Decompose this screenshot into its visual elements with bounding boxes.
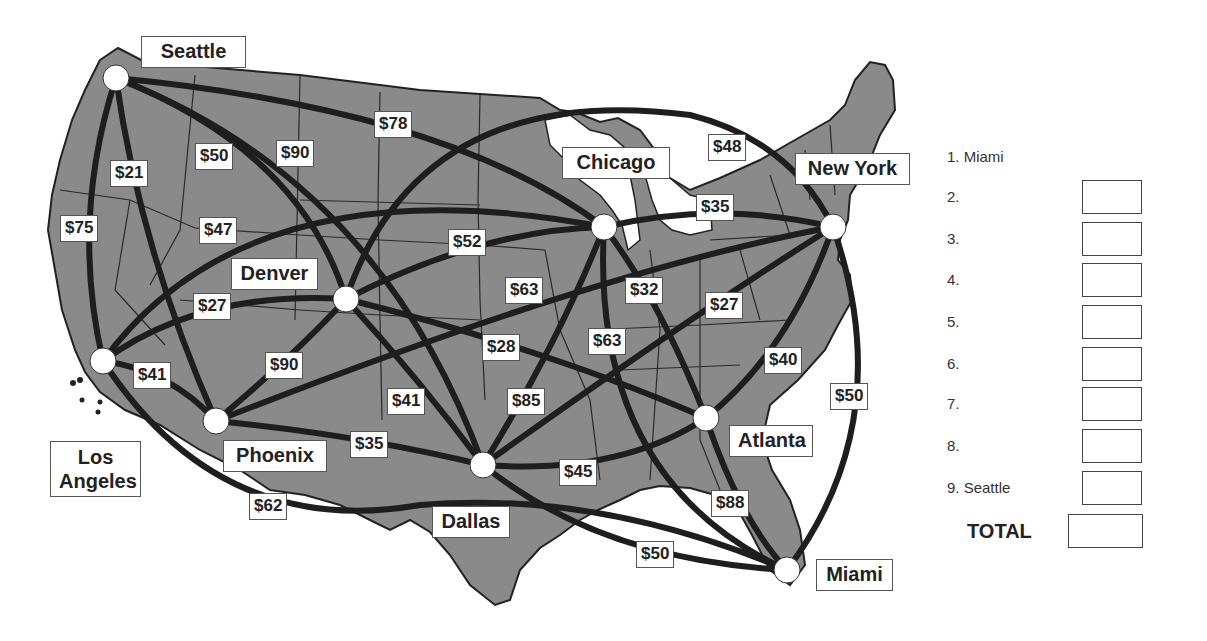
price-label-dallas-atlanta: $45 [559, 459, 597, 486]
city-node-phoenix [203, 408, 229, 434]
price-label-phoenix-new-york: $63 [505, 277, 543, 304]
answer-row-3: 3. [945, 222, 1175, 258]
answer-row-1: 1. Miami [945, 140, 1175, 176]
price-label-chicago-atlanta: $32 [625, 277, 663, 304]
answer-box[interactable] [1082, 429, 1142, 463]
city-label-dallas: Dallas [432, 506, 510, 538]
total-row: TOTAL [945, 514, 1175, 550]
price-label-seattle-phoenix: $21 [110, 160, 148, 187]
answer-row-8: 8. [945, 429, 1175, 465]
answer-row-5: 5. [945, 305, 1175, 341]
city-label-los-angeles: Los Angeles [50, 441, 141, 497]
price-label-denver-dallas: $41 [387, 388, 425, 415]
answer-row-4: 4. [945, 263, 1175, 299]
city-node-denver [333, 286, 359, 312]
price-label-dallas-miami: $50 [636, 541, 674, 568]
city-node-miami [774, 557, 800, 583]
answer-box[interactable] [1082, 471, 1142, 505]
price-label-denver-new-york: $48 [708, 134, 746, 161]
answer-row-label: 9. Seattle [947, 479, 1010, 496]
answer-box[interactable] [1082, 305, 1142, 339]
city-label-miami: Miami [816, 559, 893, 591]
answer-box[interactable] [1082, 387, 1142, 421]
price-label-los-angeles-denver: $27 [193, 293, 231, 320]
price-label-chicago-new-york: $35 [696, 194, 734, 221]
price-label-los-angeles-chicago: $47 [199, 217, 237, 244]
city-label-atlanta: Atlanta [729, 425, 813, 457]
answer-row-label: 4. [947, 271, 960, 288]
answer-box[interactable] [1082, 347, 1142, 381]
answer-row-label: 1. Miami [947, 148, 1004, 165]
price-label-dallas-new-york: $27 [705, 292, 743, 319]
price-label-seattle-denver: $90 [276, 140, 314, 167]
answer-row-7: 7. [945, 387, 1175, 423]
answer-row-2: 2. [945, 180, 1175, 216]
answer-box[interactable] [1082, 263, 1142, 297]
price-label-chicago-miami: $63 [588, 328, 626, 355]
city-node-atlanta [693, 405, 719, 431]
answer-sheet: 1. Miami 2. 3. 4. 5. 6. 7. 8. 9. Seattle… [945, 140, 1175, 560]
answer-row-label: 7. [947, 395, 960, 412]
price-label-denver-atlanta: $28 [482, 334, 520, 361]
answer-row-9: 9. Seattle [945, 471, 1175, 507]
price-label-phoenix-denver: $90 [265, 352, 303, 379]
answer-box[interactable] [1082, 180, 1142, 214]
answer-row-label: 8. [947, 437, 960, 454]
price-label-denver-chicago: $52 [448, 229, 486, 256]
city-node-chicago [591, 214, 617, 240]
city-label-chicago: Chicago [562, 147, 670, 179]
answer-row-label: 6. [947, 355, 960, 372]
city-label-phoenix: Phoenix [223, 440, 327, 472]
price-label-seattle-dallas: $50 [195, 143, 233, 170]
answer-row-label: 5. [947, 313, 960, 330]
answer-row-label: 3. [947, 230, 960, 247]
price-label-dallas-chicago: $85 [507, 388, 545, 415]
price-label-seattle-chicago: $78 [374, 111, 412, 138]
city-node-new-york [820, 214, 846, 240]
price-label-new-york-miami: $50 [830, 383, 868, 410]
answer-row-label: 2. [947, 188, 960, 205]
answer-row-6: 6. [945, 347, 1175, 383]
price-label-los-angeles-phoenix: $41 [133, 362, 171, 389]
city-node-los-angeles [90, 348, 116, 374]
total-box[interactable] [1068, 514, 1143, 548]
price-label-phoenix-dallas: $35 [350, 431, 388, 458]
city-node-dallas [470, 452, 496, 478]
total-label: TOTAL [967, 520, 1032, 543]
price-label-atlanta-new-york: $40 [764, 347, 802, 374]
city-node-seattle [103, 65, 129, 91]
city-label-new-york: New York [795, 153, 910, 185]
us-route-map [0, 0, 930, 641]
price-label-atlanta-miami: $88 [711, 490, 749, 517]
answer-box[interactable] [1082, 222, 1142, 256]
city-label-seattle: Seattle [141, 36, 246, 68]
price-label-los-angeles-miami: $62 [249, 493, 287, 520]
price-label-seattle-los-angeles: $75 [60, 215, 98, 242]
city-label-denver: Denver [231, 258, 318, 290]
